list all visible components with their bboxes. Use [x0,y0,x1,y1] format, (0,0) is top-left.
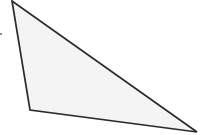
left-edge-tick-mark [0,33,2,35]
triangle-svg [0,0,200,135]
figure-canvas [0,0,200,135]
triangle-shape[interactable] [12,1,197,132]
